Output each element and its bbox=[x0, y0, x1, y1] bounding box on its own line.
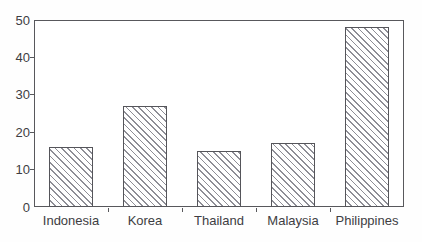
x-axis-tick-mark-1 bbox=[108, 208, 109, 212]
x-axis-label-indonesia: Indonesia bbox=[34, 213, 108, 228]
x-axis-label-philippines: Philippines bbox=[330, 213, 404, 228]
y-axis-tick-mark-20 bbox=[30, 132, 34, 133]
x-axis-label-malaysia: Malaysia bbox=[256, 213, 330, 228]
x-axis-tick-mark-3 bbox=[256, 208, 257, 212]
bar-thailand bbox=[197, 151, 241, 207]
y-axis-tick-label-50: 50 bbox=[2, 13, 30, 28]
y-axis-tick-label-40: 40 bbox=[2, 50, 30, 65]
y-axis-tick-label-0: 0 bbox=[2, 200, 30, 215]
y-axis-tick-mark-30 bbox=[30, 94, 34, 95]
y-axis-tick-mark-10 bbox=[30, 169, 34, 170]
bar-indonesia bbox=[49, 147, 93, 207]
x-axis-label-thailand: Thailand bbox=[182, 213, 256, 228]
x-axis-tick-mark-4 bbox=[330, 208, 331, 212]
bar-chart-figure: 01020304050IndonesiaKoreaThailandMalaysi… bbox=[0, 0, 422, 242]
y-axis-tick-label-20: 20 bbox=[2, 125, 30, 140]
y-axis-tick-mark-40 bbox=[30, 57, 34, 58]
bar-korea bbox=[123, 106, 167, 207]
x-axis-tick-mark-2 bbox=[182, 208, 183, 212]
x-axis-label-korea: Korea bbox=[108, 213, 182, 228]
bar-malaysia bbox=[271, 143, 315, 207]
bar-philippines bbox=[345, 27, 389, 207]
y-axis-tick-label-10: 10 bbox=[2, 162, 30, 177]
y-axis-tick-label-30: 30 bbox=[2, 87, 30, 102]
